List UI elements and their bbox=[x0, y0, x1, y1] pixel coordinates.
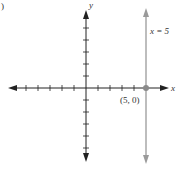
line-down-arrow-icon bbox=[143, 155, 149, 164]
y-axis: y bbox=[83, 0, 93, 162]
point-5-0 bbox=[143, 85, 149, 91]
panel-label: ) bbox=[1, 1, 4, 11]
y-axis-up-arrow-icon bbox=[83, 10, 89, 19]
y-axis-down-arrow-icon bbox=[83, 153, 89, 162]
point-label: (5, 0) bbox=[120, 95, 140, 105]
coordinate-plane: ) x bbox=[0, 0, 181, 182]
x-axis-left-arrow-icon bbox=[8, 85, 17, 91]
x-axis-label: x bbox=[170, 83, 175, 93]
line-equation-label: x = 5 bbox=[149, 26, 170, 36]
line-up-arrow-icon bbox=[143, 8, 149, 17]
x-axis: x bbox=[8, 83, 175, 93]
y-axis-label: y bbox=[88, 0, 93, 10]
x-axis-right-arrow-icon bbox=[160, 85, 169, 91]
